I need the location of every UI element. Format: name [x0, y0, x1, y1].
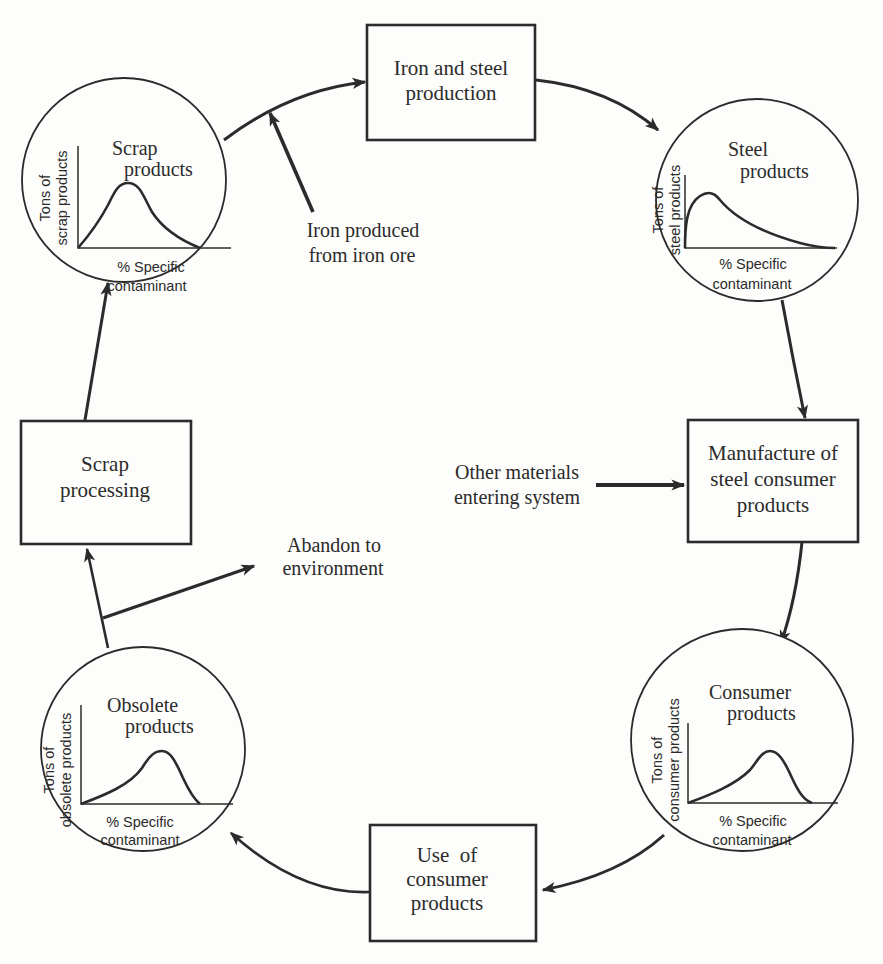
circle-title: products — [124, 158, 193, 181]
box-scrap-processing: Scrap processing — [21, 421, 191, 544]
y-axis-label: Tons of — [650, 186, 666, 234]
label-other-materials-entering-system: Other materials entering system — [454, 461, 581, 509]
box-label-line: products — [737, 493, 809, 517]
x-axis-label: contaminant — [713, 832, 792, 848]
circle-title: Scrap — [112, 137, 158, 160]
y-axis-label: Tons of — [649, 736, 665, 784]
box-label-line: consumer — [406, 867, 488, 891]
circle-title: products — [727, 702, 796, 725]
label-iron-produced-from-iron-ore: Iron produced from iron ore — [307, 219, 420, 266]
label-abandon-to-environment: Abandon to environment — [282, 534, 384, 579]
x-axis-label: % Specific — [106, 814, 174, 830]
label-line: from iron ore — [309, 244, 416, 266]
flow-arrow-manufacture-to-consumer-products — [781, 542, 802, 643]
x-axis-label: contaminant — [713, 276, 792, 292]
circle-title: products — [740, 160, 809, 183]
box-label-line: Iron and steel — [394, 56, 508, 80]
label-line: Other materials — [455, 461, 579, 483]
label-line: Abandon to — [287, 534, 381, 556]
box-label-line: Manufacture of — [708, 441, 838, 465]
box-label-line: steel consumer — [710, 467, 835, 491]
circle-title: Obsolete — [107, 694, 178, 716]
y-axis-label: steel products — [667, 165, 683, 255]
flow-arrow-steel-products-to-manufacture — [782, 300, 805, 418]
circle-title: products — [125, 715, 194, 738]
y-axis-label: obsolete products — [58, 713, 74, 827]
box-use-of-consumer-products: Use of consumer products — [370, 825, 536, 941]
flow-arrow-obsolete-to-scrap-processing — [87, 549, 108, 648]
circle-steel-products: Steel products Tons of steel products % … — [650, 99, 858, 301]
y-axis-label: Tons of — [37, 174, 53, 222]
label-line: entering system — [454, 486, 581, 509]
flow-arrow-use-to-obsolete-products — [231, 833, 370, 892]
label-line: Iron produced — [307, 219, 420, 242]
box-iron-steel-production: Iron and steel production — [367, 25, 535, 140]
x-axis-label: % Specific — [719, 813, 787, 829]
box-label-line: production — [406, 81, 497, 105]
y-axis-label: consumer products — [666, 698, 682, 821]
output-arrow-abandon — [103, 566, 254, 618]
flow-arrow-iron-steel-to-steel-products — [536, 80, 658, 130]
x-axis-label: contaminant — [101, 832, 180, 848]
x-axis-label: % Specific — [719, 256, 787, 272]
box-label-line: products — [411, 891, 483, 915]
box-label-line: Use of — [417, 843, 478, 867]
box-label-line: processing — [60, 478, 150, 502]
flow-arrow-scrap-to-iron-steel — [224, 82, 365, 140]
circle-title: Consumer — [709, 681, 792, 703]
circle-consumer-products: Consumer products Tons of consumer produ… — [631, 629, 853, 851]
box-manufacture-steel-consumer-products: Manufacture of steel consumer products — [688, 420, 858, 542]
flow-arrow-consumer-products-to-use — [543, 835, 664, 890]
circle-obsolete-products: Obsolete products Tons of obsolete produ… — [41, 647, 245, 851]
label-line: environment — [282, 557, 384, 579]
steel-recycling-cycle-diagram: Iron and steel production Manufacture of… — [0, 0, 883, 964]
x-axis-label: % Specific — [117, 259, 185, 275]
input-arrow-iron-ore — [270, 113, 313, 212]
circle-scrap-products: Scrap products Tons of scrap products % … — [22, 78, 231, 294]
y-axis-label: Tons of — [41, 746, 57, 794]
circle-title: Steel — [728, 138, 768, 160]
y-axis-label: scrap products — [54, 150, 70, 245]
x-axis-label: contaminant — [108, 278, 187, 294]
box-label-line: Scrap — [81, 452, 129, 476]
flow-arrow-scrap-processing-to-scrap-products — [85, 283, 108, 420]
